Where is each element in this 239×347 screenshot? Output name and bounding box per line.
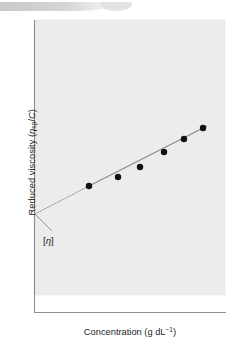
data-point-marker: [137, 164, 143, 170]
data-point-marker: [200, 125, 206, 131]
x-axis-title-suffix: ): [173, 327, 176, 337]
y-axis-title-prefix: Reduced viscosity (: [27, 134, 37, 216]
y-axis-title-subscript: sp: [30, 122, 37, 129]
y-axis-title-variable: C: [27, 112, 37, 119]
viscosity-chart-figure: Reduced viscosity (ηsp/C) Concentration …: [0, 0, 239, 347]
data-point-marker: [161, 149, 167, 155]
data-point-marker: [181, 136, 187, 142]
y-axis-title: Reduced viscosity (ηsp/C): [27, 67, 37, 257]
intrinsic-viscosity-annotation: [η]: [43, 235, 54, 246]
x-axis-title-prefix: Concentration (g dL: [84, 327, 166, 337]
y-axis-title-divider: /: [27, 119, 37, 122]
bracket-close: ]: [51, 235, 54, 246]
x-axis-title: Concentration (g dL−1): [34, 326, 226, 337]
plot-area-background: [35, 20, 225, 295]
y-axis-title-suffix: ): [27, 109, 37, 112]
data-point-marker: [115, 174, 121, 180]
data-point-marker: [86, 183, 92, 189]
y-axis-title-eta: η: [27, 129, 37, 134]
x-axis-title-superscript: −1: [166, 326, 174, 333]
